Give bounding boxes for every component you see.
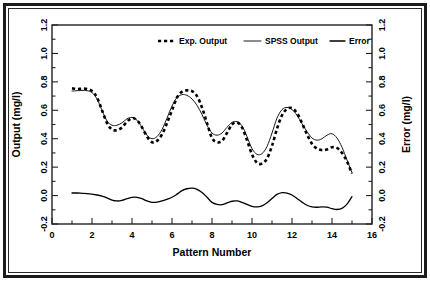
y-axis-title: Output (mg/l) bbox=[10, 92, 22, 158]
legend-label-3: Error bbox=[349, 36, 370, 46]
x-axis-tick-label: 16 bbox=[367, 230, 377, 240]
y2-axis-tick-label: 0.2 bbox=[377, 161, 387, 174]
x-axis-tick-label: 14 bbox=[327, 230, 337, 240]
y-axis-tick-label: 0.4 bbox=[39, 132, 49, 145]
y2-axis-tick-label: 0.0 bbox=[377, 189, 387, 202]
x-axis-tick-label: 8 bbox=[209, 230, 214, 240]
plot-frame bbox=[52, 25, 372, 224]
chart-canvas: 0246810121416Pattern Number-0.20.00.20.4… bbox=[0, 0, 430, 281]
figure-container: 0246810121416Pattern Number-0.20.00.20.4… bbox=[0, 0, 430, 281]
legend-label-2: SPSS Output bbox=[265, 36, 318, 46]
x-axis-tick-label: 12 bbox=[287, 230, 297, 240]
x-axis-tick-label: 4 bbox=[129, 230, 134, 240]
y-axis-tick-label: 0.8 bbox=[39, 76, 49, 89]
legend-label-1: Exp. Output bbox=[179, 36, 227, 46]
x-axis-tick-label: 2 bbox=[89, 230, 94, 240]
y2-axis-tick-label: 0.6 bbox=[377, 104, 387, 117]
x-axis-tick-label: 6 bbox=[169, 230, 174, 240]
y-axis-tick-label: 0.6 bbox=[39, 104, 49, 117]
y2-axis-tick-label: 0.4 bbox=[377, 132, 387, 145]
x-axis-title: Pattern Number bbox=[173, 246, 252, 258]
x-axis-tick-label: 10 bbox=[247, 230, 257, 240]
y-axis-tick-label: 0.2 bbox=[39, 161, 49, 174]
y2-axis-tick-label: 1.0 bbox=[377, 47, 387, 60]
y-axis-tick-label: 1.2 bbox=[39, 19, 49, 32]
y-axis-tick-label: 0.0 bbox=[39, 189, 49, 202]
y2-axis-tick-label: 0.8 bbox=[377, 76, 387, 89]
y-axis-tick-label: 1.0 bbox=[39, 47, 49, 60]
y2-axis-tick-label: -0.2 bbox=[377, 216, 387, 232]
y-axis-tick-label: -0.2 bbox=[39, 216, 49, 232]
y2-axis-tick-label: 1.2 bbox=[377, 19, 387, 32]
x-axis-tick-label: 0 bbox=[49, 230, 54, 240]
y2-axis-title: Error (mg/l) bbox=[400, 96, 412, 153]
